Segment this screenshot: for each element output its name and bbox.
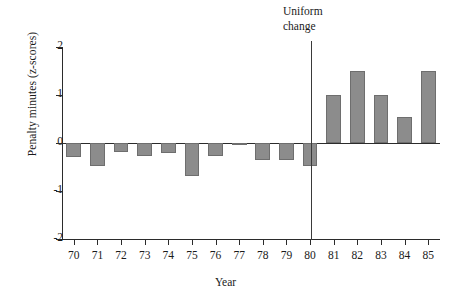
x-tick-label: 71 (85, 250, 109, 262)
y-tick-label: 2 (41, 40, 63, 52)
x-tick-mark (168, 240, 169, 245)
bar (326, 95, 341, 143)
x-tick-mark (381, 240, 382, 245)
bar (66, 143, 81, 157)
bar (185, 143, 200, 176)
x-tick-mark (263, 240, 264, 245)
bar (397, 117, 412, 143)
x-tick-label: 76 (204, 250, 228, 262)
bar (208, 143, 223, 156)
penalty-minutes-bar-chart: Penalty minutes (z-scores) 210-1-2 70717… (0, 0, 451, 305)
bar (255, 143, 270, 160)
uniform-change-divider (311, 41, 312, 240)
uniform-change-annotation: Uniform change (283, 4, 323, 34)
y-tick-mark (56, 95, 63, 96)
x-tick-mark (145, 240, 146, 245)
x-tick-mark (216, 240, 217, 245)
bar (350, 71, 365, 143)
y-tick-mark (56, 143, 63, 144)
x-tick-label: 80 (298, 250, 322, 262)
bar (114, 143, 129, 152)
y-axis-title: Penalty minutes (z-scores) (26, 0, 38, 194)
x-axis-title: Year (0, 276, 451, 288)
x-tick-mark (310, 240, 311, 245)
x-tick-label: 85 (416, 250, 440, 262)
x-tick-label: 81 (322, 250, 346, 262)
bar (137, 143, 152, 156)
x-tick-label: 83 (369, 250, 393, 262)
x-tick-mark (97, 240, 98, 245)
x-tick-label: 70 (62, 250, 86, 262)
x-tick-mark (192, 240, 193, 245)
y-tick-label: -2 (41, 232, 63, 244)
x-tick-label: 78 (251, 250, 275, 262)
bar (90, 143, 105, 166)
x-tick-label: 84 (393, 250, 417, 262)
x-tick-mark (239, 240, 240, 245)
x-axis-line (62, 239, 440, 240)
bar (279, 143, 294, 160)
x-tick-mark (286, 240, 287, 245)
x-tick-mark (74, 240, 75, 245)
x-tick-label: 73 (133, 250, 157, 262)
x-tick-mark (428, 240, 429, 245)
bar (161, 143, 176, 153)
bar (421, 71, 436, 143)
x-tick-label: 72 (109, 250, 133, 262)
bar (374, 95, 389, 143)
x-tick-label: 77 (227, 250, 251, 262)
x-tick-label: 75 (180, 250, 204, 262)
x-tick-mark (121, 240, 122, 245)
bar (232, 143, 247, 145)
y-tick-mark (56, 191, 63, 192)
x-tick-label: 74 (156, 250, 180, 262)
x-tick-mark (405, 240, 406, 245)
x-tick-label: 82 (345, 250, 369, 262)
y-tick-label: 1 (41, 88, 63, 100)
x-tick-label: 79 (274, 250, 298, 262)
y-tick-mark (56, 47, 63, 48)
y-tick-label: -1 (41, 184, 63, 196)
y-tick-label: 0 (41, 136, 63, 148)
x-tick-mark (334, 240, 335, 245)
y-tick-mark (56, 239, 63, 240)
x-tick-mark (357, 240, 358, 245)
